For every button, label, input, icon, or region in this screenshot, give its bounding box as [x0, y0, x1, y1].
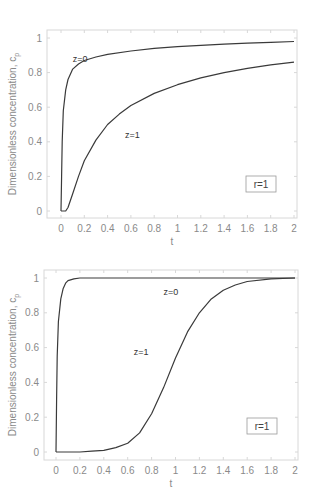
y-axis-title: Dimensionless concentration, cp	[7, 53, 21, 195]
x-tick-label: 0.6	[124, 223, 138, 234]
x-tick-label: 2	[292, 465, 298, 476]
x-tick-label: 1.4	[216, 465, 230, 476]
x-tick-label: 0.4	[97, 465, 111, 476]
figure-canvas: 00.20.40.60.811.21.41.61.8200.20.40.60.8…	[0, 0, 317, 501]
y-axis-title: Dimensionless concentration, cp	[7, 294, 21, 436]
x-tick-label: 0.4	[101, 223, 115, 234]
y-tick-label: 0.6	[28, 102, 42, 113]
y-tick-label: 0.4	[28, 136, 42, 147]
x-tick-label: 0.8	[145, 465, 159, 476]
x-tick-label: 1.8	[264, 465, 278, 476]
x-tick-label: 2	[291, 223, 297, 234]
x-tick-label: 1.8	[264, 223, 278, 234]
curve-label: z=0	[164, 287, 179, 297]
y-tick-label: 0.8	[25, 307, 39, 318]
y-tick-label: 0.4	[25, 377, 39, 388]
y-tick-label: 0.8	[28, 67, 42, 78]
x-tick-label: 0	[53, 465, 59, 476]
y-tick-label: 1	[33, 273, 39, 284]
x-tick-label: 1.4	[217, 223, 231, 234]
x-tick-label: 1	[175, 223, 181, 234]
x-tick-label: 1.6	[240, 223, 254, 234]
x-tick-label: 1.2	[192, 465, 206, 476]
x-tick-label: 1	[173, 465, 179, 476]
y-tick-label: 0	[33, 447, 39, 458]
y-tick-label: 0.6	[25, 342, 39, 353]
x-tick-label: 0.2	[77, 223, 91, 234]
x-tick-label: 0	[58, 223, 64, 234]
legend-label: r=1	[254, 179, 269, 190]
curve-label: z=1	[134, 347, 149, 357]
curve-label: z=1	[125, 130, 140, 140]
y-tick-label: 0	[36, 206, 42, 217]
chart-top: 00.20.40.60.811.21.41.61.8200.20.40.60.8…	[7, 30, 297, 247]
chart-bottom: 00.20.40.60.811.21.41.61.8200.20.40.60.8…	[7, 270, 298, 489]
y-tick-label: 0.2	[28, 171, 42, 182]
curve-label: z=0	[73, 54, 88, 64]
x-tick-label: 0.8	[147, 223, 161, 234]
x-tick-label: 0.2	[73, 465, 87, 476]
x-tick-label: 0.6	[121, 465, 135, 476]
legend-label: r=1	[255, 421, 270, 432]
x-tick-label: 1.6	[240, 465, 254, 476]
y-tick-label: 0.2	[25, 412, 39, 423]
y-tick-label: 1	[36, 33, 42, 44]
x-axis-title: t	[171, 236, 174, 247]
x-tick-label: 1.2	[194, 223, 208, 234]
x-axis-title: t	[170, 478, 173, 489]
